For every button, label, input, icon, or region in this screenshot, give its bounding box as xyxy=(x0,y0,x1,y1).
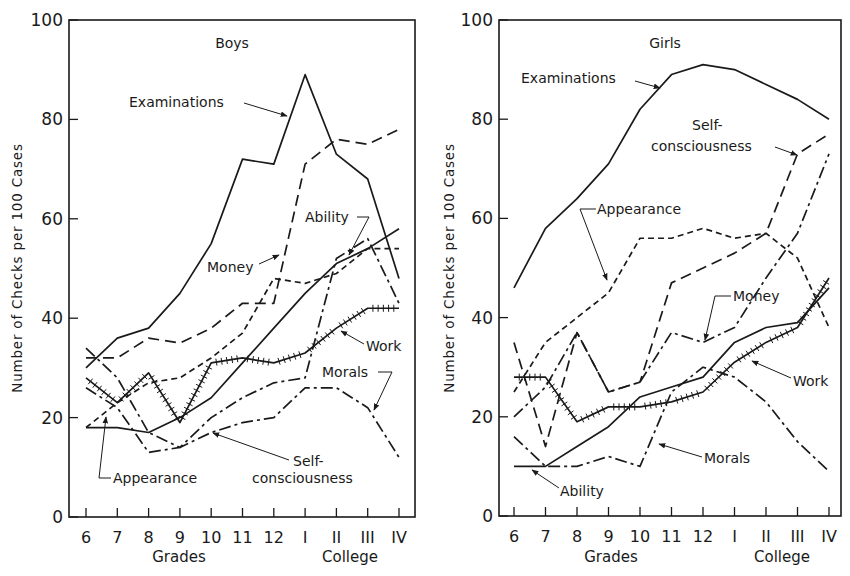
hatch-mark xyxy=(221,358,222,365)
hatch-mark xyxy=(263,358,264,365)
girls-label-appearance: Appearance xyxy=(597,201,681,217)
x-tick-label: 8 xyxy=(144,528,154,547)
x-tick-label: 11 xyxy=(232,528,252,547)
girls-label-morals: Morals xyxy=(704,450,750,466)
y-tick-label: 0 xyxy=(52,507,63,527)
boys-arrow-examinations xyxy=(244,103,287,116)
x-tick-label: 12 xyxy=(264,528,284,547)
girls-y-axis: 020406080100 xyxy=(461,10,508,526)
x-tick-label: 12 xyxy=(693,527,713,546)
boys-label-work: Work xyxy=(366,338,402,354)
girls-arrow-money xyxy=(705,296,731,340)
boys-label-morals: Morals xyxy=(322,364,368,380)
figure: 020406080100 6789101112IIIIIIIV Boys Num… xyxy=(0,0,850,576)
girls-chart: 020406080100 6789101112IIIIIIIV Girls Nu… xyxy=(441,10,841,566)
x-tick-label: III xyxy=(361,528,375,547)
x-tick-label: 11 xyxy=(661,527,681,546)
girls-series-lines xyxy=(514,65,829,472)
hatch-mark xyxy=(645,403,646,410)
boys-label-self-1: Self- xyxy=(293,453,324,469)
boys-title: Boys xyxy=(215,35,249,51)
y-tick-label: 100 xyxy=(31,10,63,30)
girls-arrow-morals xyxy=(659,444,702,457)
girls-x-axis: 6789101112IIIIIIIV xyxy=(509,507,837,546)
hatch-mark xyxy=(237,355,238,362)
hatch-mark xyxy=(226,357,227,364)
hatch-mark xyxy=(660,400,661,407)
series-line-ability xyxy=(514,288,829,467)
boys-arrow-self xyxy=(213,433,289,460)
hatch-mark xyxy=(650,402,651,409)
y-tick-label: 80 xyxy=(471,109,493,129)
boys-y-axis-label: Number of Checks per 100 Cases xyxy=(9,143,25,393)
boys-label-appearance: Appearance xyxy=(113,470,197,486)
hatch-mark xyxy=(655,401,656,408)
boys-x-label-college: College xyxy=(322,548,378,566)
girls-arrow-appearance xyxy=(580,209,607,280)
girls-label-self-2: consciousness xyxy=(651,138,752,154)
boys-label-examinations: Examinations xyxy=(129,94,224,110)
boys-chart: 020406080100 6789101112IIIIIIIV Boys Num… xyxy=(9,10,415,566)
girls-label-ability: Ability xyxy=(560,483,604,499)
girls-arrow-self xyxy=(775,147,797,155)
x-tick-label: 7 xyxy=(112,528,122,547)
hatch-mark xyxy=(216,359,217,366)
x-tick-label: II xyxy=(761,527,770,546)
girls-plot-frame xyxy=(499,20,841,516)
girls-label-examinations: Examinations xyxy=(521,70,616,86)
x-tick-label: IV xyxy=(821,527,837,546)
y-tick-label: 40 xyxy=(471,308,493,328)
boys-arrow-money xyxy=(259,255,279,264)
hatch-mark xyxy=(268,359,269,366)
x-tick-label: 10 xyxy=(201,528,221,547)
x-tick-label: I xyxy=(732,527,737,546)
boys-arrow-work xyxy=(341,331,364,344)
y-tick-label: 20 xyxy=(41,408,63,428)
y-tick-label: 0 xyxy=(482,506,493,526)
series-line-appearance xyxy=(86,249,399,428)
boys-arrow-morals xyxy=(374,372,392,410)
girls-label-self-1: Self- xyxy=(692,117,723,133)
series-line-work xyxy=(514,278,829,422)
girls-y-axis-label: Number of Checks per 100 Cases xyxy=(441,143,457,393)
series-line-appearance xyxy=(514,228,829,392)
hatch-mark xyxy=(258,357,259,364)
y-tick-label: 20 xyxy=(471,407,493,427)
boys-x-label-grades: Grades xyxy=(152,548,206,566)
boys-label-money: Money xyxy=(207,259,253,275)
girls-x-label-grades: Grades xyxy=(584,548,638,566)
boys-label-self-2: consciousness xyxy=(252,470,353,486)
hatch-mark xyxy=(232,356,233,363)
boys-label-ability: Ability xyxy=(305,209,349,225)
x-tick-label: 8 xyxy=(572,527,582,546)
x-tick-label: 6 xyxy=(509,527,519,546)
x-tick-label: III xyxy=(790,527,804,546)
series-line-money xyxy=(86,129,399,358)
boys-y-axis: 020406080100 xyxy=(31,10,78,527)
x-tick-label: IV xyxy=(391,528,407,547)
x-tick-label: 9 xyxy=(603,527,613,546)
girls-arrow-work xyxy=(752,361,791,378)
y-tick-label: 100 xyxy=(461,10,493,30)
boys-x-axis: 6789101112IIIIIIIV xyxy=(81,508,407,547)
girls-label-money: Money xyxy=(733,288,779,304)
girls-x-label-college: College xyxy=(754,548,810,566)
girls-label-work: Work xyxy=(793,373,829,389)
girls-arrow-ability xyxy=(532,470,559,488)
x-tick-label: 7 xyxy=(540,527,550,546)
x-tick-label: II xyxy=(332,528,341,547)
boys-arrow-appearance xyxy=(99,417,111,478)
y-tick-label: 80 xyxy=(41,109,63,129)
y-tick-label: 40 xyxy=(41,308,63,328)
y-tick-label: 60 xyxy=(41,209,63,229)
x-tick-label: I xyxy=(303,528,308,547)
x-tick-label: 10 xyxy=(630,527,650,546)
girls-title: Girls xyxy=(649,35,681,51)
series-line-examinations xyxy=(86,75,399,368)
x-tick-label: 9 xyxy=(175,528,185,547)
girls-arrow-examinations xyxy=(635,81,660,88)
y-tick-label: 60 xyxy=(471,208,493,228)
x-tick-label: 6 xyxy=(81,528,91,547)
hatch-mark xyxy=(252,356,253,363)
